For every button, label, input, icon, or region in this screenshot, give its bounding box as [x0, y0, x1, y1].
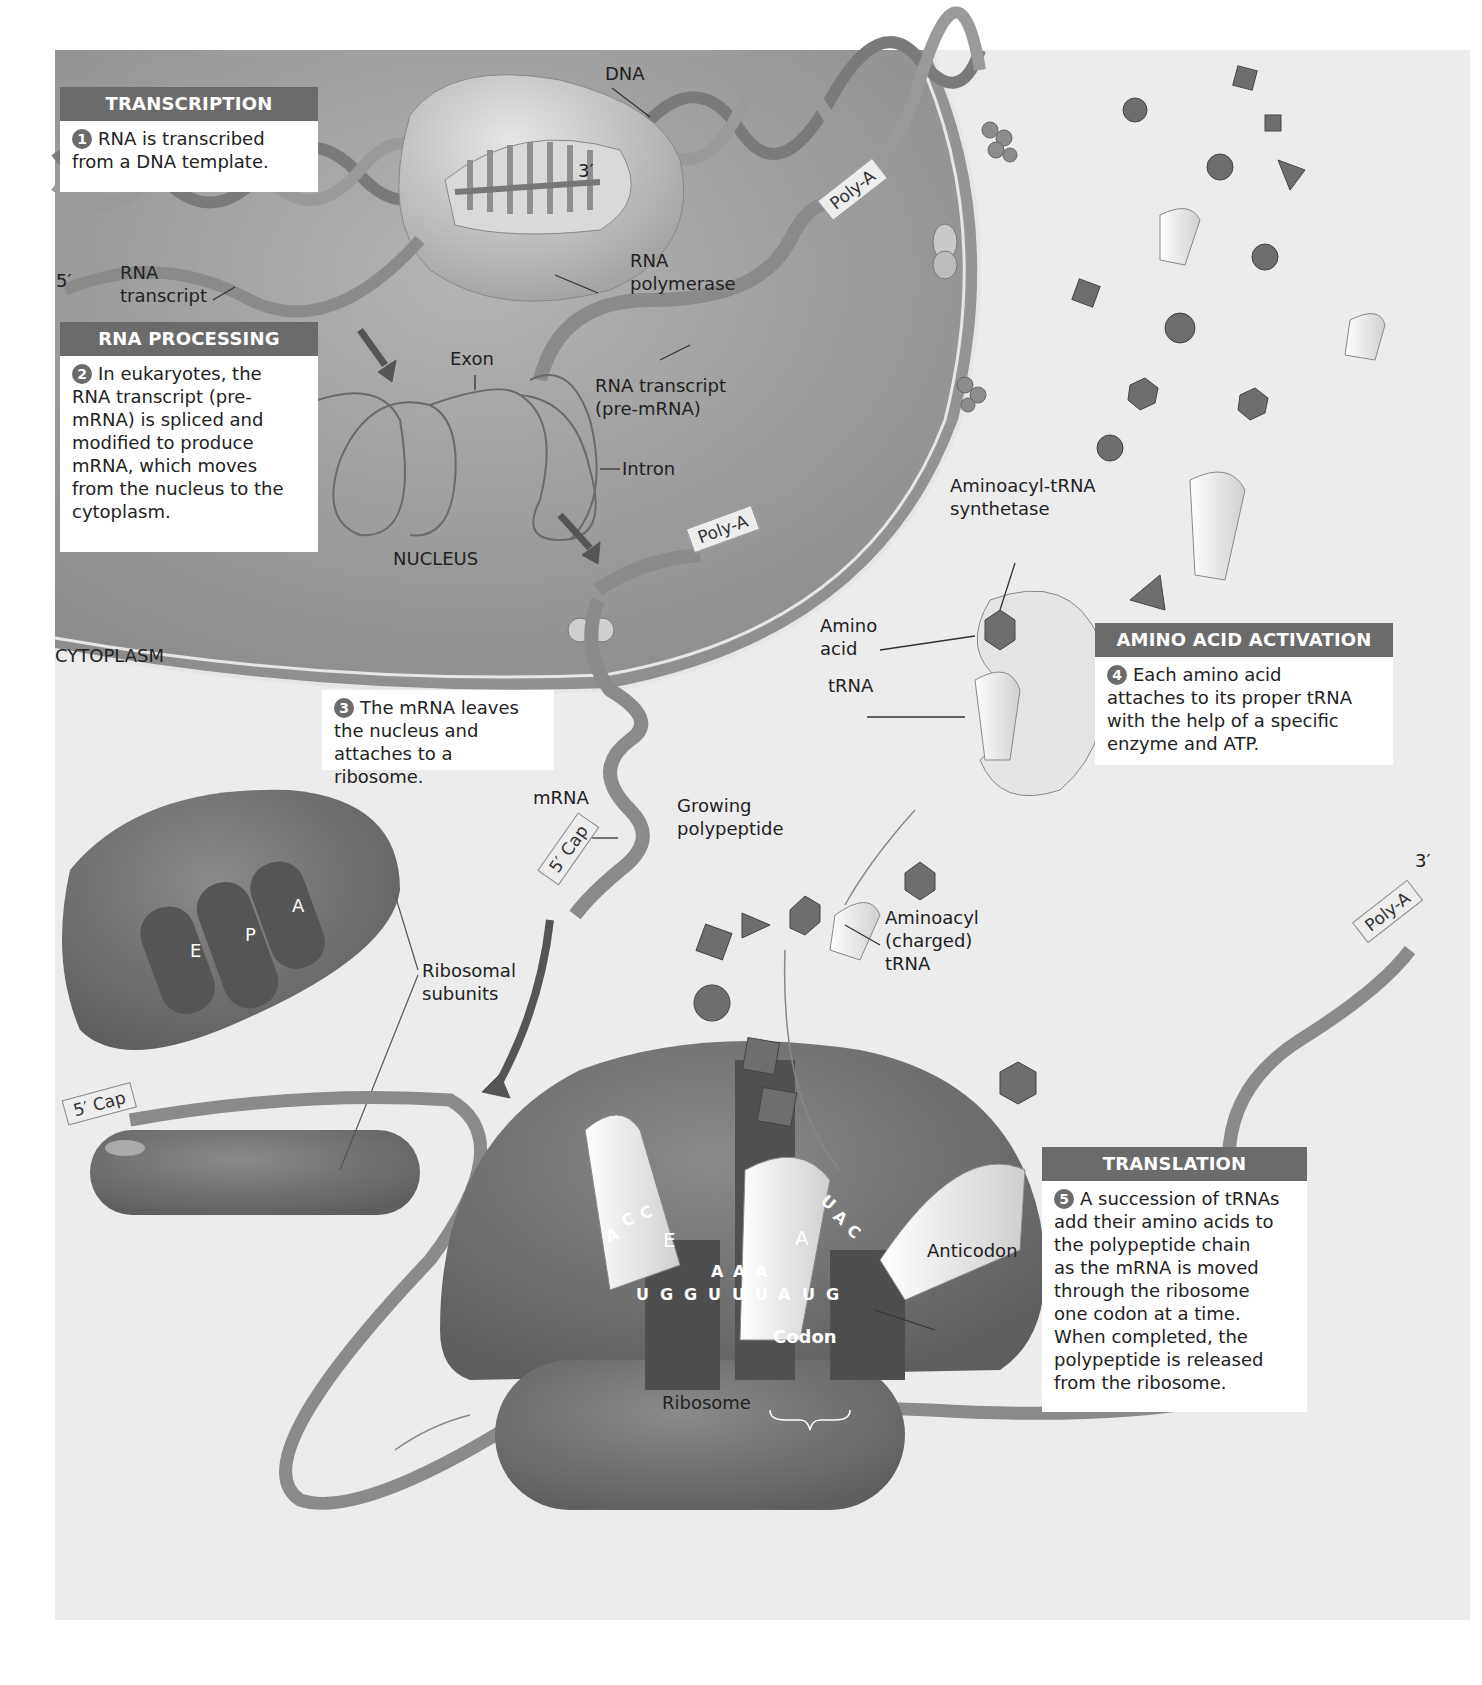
anticodon-label: Anticodon — [927, 1240, 1018, 1262]
p-trna-anticodon-2: A — [733, 1262, 745, 1281]
rna-processing-callout: RNA PROCESSING 2In eukaryotes, the RNA t… — [60, 322, 318, 552]
amino-acid-activation-callout: AMINO ACID ACTIVATION 4Each amino acid a… — [1095, 623, 1393, 765]
rna-polymerase-label-line1: RNA — [630, 250, 668, 272]
translation-heading: TRANSLATION — [1042, 1147, 1307, 1181]
cytoplasm-label: CYTOPLASM — [55, 645, 164, 667]
step-number-3-icon: 3 — [334, 698, 354, 718]
p-trna-anticodon-1: A — [711, 1262, 723, 1281]
dna-label: DNA — [605, 63, 645, 85]
mrna-base-7: A — [778, 1285, 790, 1304]
rna-polymerase-label-line2: polymerase — [630, 273, 736, 295]
intron-label: Intron — [622, 458, 675, 480]
aminoacyl-trna-synthetase — [975, 591, 1105, 796]
mrna-export-callout: 3The mRNA leaves the nucleus and attache… — [322, 690, 554, 770]
illustration — [0, 0, 1482, 1685]
mrna-base-1: U — [636, 1285, 649, 1304]
figure-canvas: TRANSCRIPTION 1RNA is transcribed from a… — [0, 0, 1482, 1685]
synthetase-label-line1: Aminoacyl-tRNA — [950, 475, 1096, 497]
transcription-heading: TRANSCRIPTION — [60, 87, 318, 121]
exon-label: Exon — [450, 348, 494, 370]
ribosome-e-site-label: E — [663, 1229, 676, 1251]
step-number-4-icon: 4 — [1107, 665, 1127, 685]
mrna-base-3: G — [684, 1285, 697, 1304]
rna-processing-text: 2In eukaryotes, the RNA transcript (pre-… — [60, 356, 318, 531]
codon-label: Codon — [773, 1326, 837, 1348]
three-prime-label: 3′ — [578, 160, 594, 182]
mrna-label: mRNA — [533, 787, 589, 809]
step-number-5-icon: 5 — [1054, 1189, 1074, 1209]
translation-callout: TRANSLATION 5A succession of tRNAs add t… — [1042, 1147, 1307, 1412]
mrna-base-9: G — [826, 1285, 839, 1304]
mrna-base-5: U — [732, 1285, 745, 1304]
site-e-label: E — [190, 940, 201, 962]
p-trna-anticodon-3: A — [755, 1262, 767, 1281]
ribosome-label: Ribosome — [662, 1392, 751, 1414]
step-number-1-icon: 1 — [72, 129, 92, 149]
site-a-label: A — [292, 895, 304, 917]
site-p-label: P — [245, 924, 256, 946]
pre-mrna-label-line1: RNA transcript — [595, 375, 726, 397]
growing-polypeptide-label-line1: Growing — [677, 795, 752, 817]
mrna-base-4: U — [708, 1285, 721, 1304]
trna-label: tRNA — [828, 675, 873, 697]
aminoacyl-trna-label-line2: (charged) — [885, 930, 972, 952]
amino-acid-activation-heading: AMINO ACID ACTIVATION — [1095, 623, 1393, 657]
rna-transcript-label-line1: RNA — [120, 262, 158, 284]
mrna-base-8: U — [802, 1285, 815, 1304]
amino-acid-activation-text: 4Each amino acid attaches to its proper … — [1095, 657, 1393, 763]
ribosomal-large-subunit — [62, 790, 400, 1050]
pre-mrna-label-line2: (pre-mRNA) — [595, 398, 701, 420]
growing-polypeptide-label-line2: polypeptide — [677, 818, 784, 840]
nucleus-label: NUCLEUS — [393, 548, 478, 570]
mrna-export-text: 3The mRNA leaves the nucleus and attache… — [322, 690, 554, 796]
ribosome-a-site-label: A — [795, 1227, 809, 1249]
transcription-callout: TRANSCRIPTION 1RNA is transcribed from a… — [60, 87, 318, 192]
rna-transcript-label-line2: transcript — [120, 285, 207, 307]
ribosomal-subunits-label-line2: subunits — [422, 983, 498, 1005]
transcription-text: 1RNA is transcribed from a DNA template. — [60, 121, 318, 181]
mrna-base-6: U — [755, 1285, 768, 1304]
aminoacyl-trna-label-line1: Aminoacyl — [885, 907, 979, 929]
ribosomal-subunits-label-line1: Ribosomal — [422, 960, 516, 982]
synthetase-label-line2: synthetase — [950, 498, 1050, 520]
amino-acid-label-line1: Amino — [820, 615, 877, 637]
three-prime-right-label: 3′ — [1415, 850, 1431, 872]
mrna-base-2: G — [660, 1285, 673, 1304]
translation-text: 5A succession of tRNAs add their amino a… — [1042, 1181, 1307, 1402]
amino-acid-label-line2: acid — [820, 638, 857, 660]
free-amino-acids — [1072, 66, 1305, 610]
rna-processing-heading: RNA PROCESSING — [60, 322, 318, 356]
step-number-2-icon: 2 — [72, 364, 92, 384]
aminoacyl-trna-label-line3: tRNA — [885, 953, 930, 975]
five-prime-label: 5′ — [56, 270, 72, 292]
ribosomal-small-subunit — [90, 1130, 420, 1215]
